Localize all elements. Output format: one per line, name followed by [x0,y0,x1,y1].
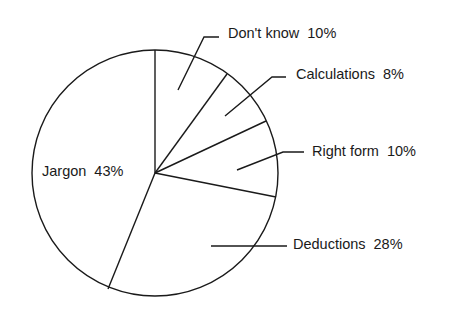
slice-label-text: Right form [312,143,379,159]
slice-label-text: Don't know [228,25,299,41]
slice-label-value: 10% [307,25,336,41]
slice-label-value: 8% [383,66,404,82]
slice-label-text: Deductions [293,236,366,252]
slice-label-dont-know: Don't know10% [228,26,336,41]
slice-label-text: Calculations [296,66,375,82]
slice-label-deductions: Deductions28% [293,237,403,252]
slice-label-value: 28% [374,236,403,252]
slice-label-value: 10% [387,143,416,159]
slice-label-text: Jargon [42,163,86,179]
slice-label-right-form: Right form10% [312,144,416,159]
pie-chart [0,0,462,320]
slice-label-calculations: Calculations8% [296,67,404,82]
slice-label-jargon: Jargon43% [42,164,123,179]
slice-label-value: 43% [94,163,123,179]
